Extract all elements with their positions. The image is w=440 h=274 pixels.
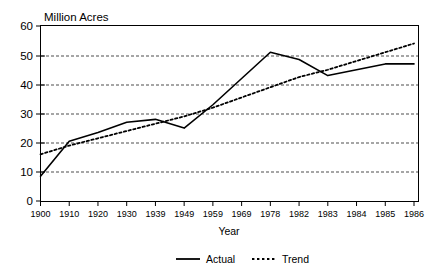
x-tick-label-1985: 1985 (375, 209, 395, 219)
plot-frame (41, 26, 419, 202)
x-tick-label-1949: 1949 (174, 209, 194, 219)
x-tick-label-1910: 1910 (59, 209, 79, 219)
x-tick-label-1984: 1984 (347, 209, 367, 219)
x-tick-label-1920: 1920 (88, 209, 108, 219)
legend-label-actual: Actual (206, 253, 235, 265)
x-tick-label-1986: 1986 (404, 209, 424, 219)
x-tick-label-1983: 1983 (318, 209, 338, 219)
y-tick-label-0: 0 (27, 195, 33, 207)
chart-legend: Actual Trend (176, 253, 309, 265)
y-tick-label-60: 60 (20, 20, 33, 32)
x-axis-title: Year (218, 225, 240, 237)
x-tick-label-1939: 1939 (145, 209, 165, 219)
line-chart: 60 50 40 30 20 10 0 Million Acres 190019… (0, 0, 440, 274)
chart-unit-caption: Million Acres (44, 11, 109, 23)
x-tick-label-1930: 1930 (117, 209, 137, 219)
x-tick-label-1900: 1900 (30, 209, 50, 219)
chart-container: 60 50 40 30 20 10 0 Million Acres 190019… (0, 0, 440, 274)
y-axis-labels: 60 50 40 30 20 10 0 (20, 20, 33, 207)
y-tick-label-50: 50 (20, 50, 33, 62)
x-tick-label-1969: 1969 (232, 209, 252, 219)
y-tick-label-30: 30 (20, 108, 33, 120)
series-line-trend (41, 44, 415, 155)
gridlines (41, 56, 418, 172)
x-tick-label-1959: 1959 (203, 209, 223, 219)
x-axis-labels: 1900191019201930193919491959196919781982… (30, 209, 424, 219)
y-tick-label-20: 20 (20, 137, 33, 149)
x-tick-label-1978: 1978 (260, 209, 280, 219)
y-tick-label-10: 10 (20, 166, 33, 178)
x-tick-label-1982: 1982 (289, 209, 309, 219)
legend-label-trend: Trend (282, 253, 309, 265)
y-tick-label-40: 40 (20, 79, 33, 91)
